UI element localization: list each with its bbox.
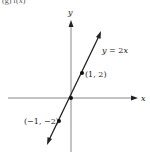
point-1-2 — [80, 71, 84, 75]
point-neg1-neg2-label: (−1, −2) — [24, 117, 59, 126]
y-axis-label: y — [67, 8, 73, 17]
clipped-caption: (g) f(x) — [2, 0, 26, 5]
x-axis-arrow-icon — [131, 96, 138, 101]
point-1-2-label: (1, 2) — [85, 70, 107, 79]
graph-figure: (g) f(x) x y y = 2x (1, 2) (−1, −2) — [0, 0, 150, 156]
y-axis-arrow-icon — [69, 20, 74, 27]
line-arrow-up-icon — [96, 31, 101, 39]
equation-label: y = 2x — [101, 46, 128, 55]
origin-point — [69, 96, 73, 100]
line-arrow-down-icon — [47, 137, 52, 145]
x-axis-label: x — [141, 94, 146, 103]
